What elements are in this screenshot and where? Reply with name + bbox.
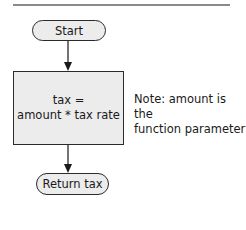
note-line-2: function parameter	[134, 122, 246, 137]
parameter-note: Note: amount is the function parameter	[134, 92, 246, 137]
process-line-2: amount * tax rate	[17, 108, 120, 123]
process-line-1: tax =	[53, 93, 85, 108]
start-terminal: Start	[32, 20, 106, 41]
tax-calculation-process: tax = amount * tax rate	[13, 71, 124, 145]
start-label: Start	[55, 24, 83, 38]
note-line-1: Note: amount is the	[134, 92, 246, 122]
arrow-start-to-calc	[64, 40, 72, 71]
return-terminal: Return tax	[36, 173, 109, 195]
return-label: Return tax	[42, 177, 102, 191]
arrow-calc-to-return	[64, 144, 72, 173]
